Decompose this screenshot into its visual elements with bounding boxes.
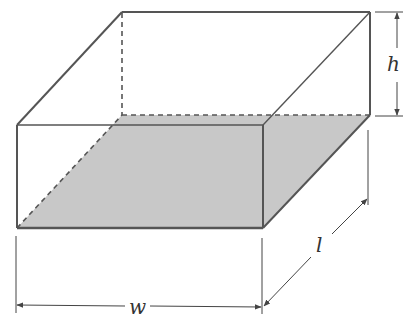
length-label: l [316, 233, 322, 257]
box-diagram: h w l [0, 0, 405, 334]
height-label: h [387, 52, 400, 76]
width-arrow-left [17, 305, 125, 306]
top-right-diagonal-edge [263, 12, 370, 125]
top-left-diagonal-edge [17, 12, 122, 125]
length-arrow-lower [264, 257, 311, 306]
width-arrow-right [150, 306, 261, 307]
width-label: w [129, 295, 146, 319]
length-arrow-upper [332, 199, 367, 234]
